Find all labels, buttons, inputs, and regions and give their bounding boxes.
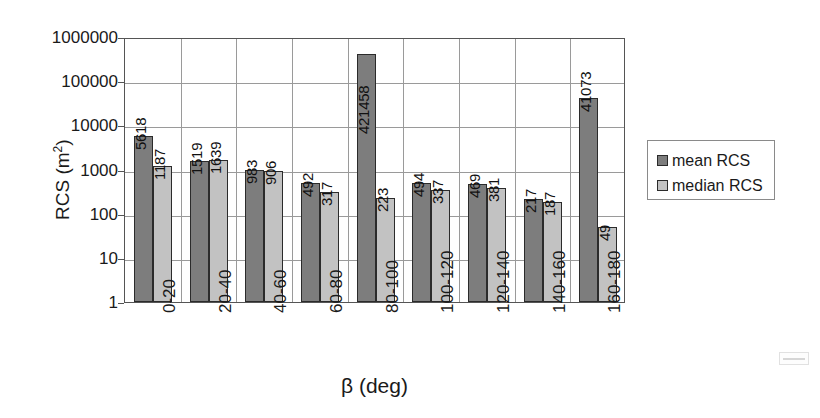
bar-value-label: 41073 [577, 72, 594, 112]
chart-canvas: 1000000100000100001000100101 RCS (m2) 56… [0, 0, 820, 418]
legend-swatch-mean [657, 155, 668, 166]
x-axis-tick-label: 100-120 [438, 251, 458, 313]
bar-value-label: 381 [485, 178, 502, 202]
legend-item-label: mean RCS [672, 152, 750, 170]
x-axis-tick-label: 140-160 [550, 251, 570, 313]
bar-value-label: 492 [299, 173, 316, 197]
bar-value-label: 1519 [188, 143, 205, 175]
x-axis-tick-label: 60-80 [327, 270, 347, 313]
y-axis-tick-label: 1 [0, 293, 118, 313]
legend-item[interactable]: mean RCS [657, 148, 774, 173]
gridline-vertical [181, 39, 182, 302]
legend: mean RCSmedian RCS [647, 140, 775, 200]
gridline-vertical [570, 39, 571, 302]
y-axis-title-text: RCS (m2) [53, 139, 74, 220]
bar-mean [468, 184, 487, 302]
bar-value-label: 223 [374, 188, 391, 212]
scan-artifact-line [783, 358, 805, 360]
bar-value-label: 49 [596, 225, 613, 241]
y-axis-tick-mark [118, 303, 124, 304]
legend-swatch-median [657, 180, 668, 191]
gridline-vertical [348, 39, 349, 302]
y-axis-title: RCS (m2) [51, 95, 74, 265]
bar-mean [301, 183, 320, 302]
x-axis-tick-label: 40-60 [271, 270, 291, 313]
legend-item[interactable]: median RCS [657, 173, 774, 198]
gridline-vertical [236, 39, 237, 302]
bar-mean [524, 199, 543, 302]
x-axis-tick-label: 20-40 [216, 270, 236, 313]
x-axis-tick-label: 120-140 [494, 251, 514, 313]
x-axis-title: β (deg) [124, 374, 625, 398]
bar-value-label: 983 [243, 160, 260, 184]
x-axis-tick-label: 0-20 [160, 279, 180, 313]
y-axis-tick-label: 1000000 [0, 28, 118, 48]
scan-artifact [779, 352, 809, 365]
bar-value-label: 217 [522, 189, 539, 213]
x-axis-tick-label: 160-180 [605, 251, 625, 313]
bar-value-label: 187 [541, 192, 558, 216]
x-axis-tick-label: 80-100 [383, 260, 403, 313]
bar-value-label: 906 [262, 161, 279, 185]
gridline-vertical [459, 39, 460, 302]
x-axis-title-text: β (deg) [341, 374, 408, 397]
bar-value-label: 317 [318, 181, 335, 205]
bar-mean [190, 161, 209, 302]
bar-value-label: 494 [410, 173, 427, 197]
gridline-vertical [403, 39, 404, 302]
bar-value-label: 1639 [207, 142, 224, 174]
bar-value-label: 1187 [151, 149, 168, 180]
y-axis-tick-label: 100000 [0, 72, 118, 92]
bar-value-label: 421458 [355, 85, 372, 133]
legend-item-label: median RCS [672, 177, 763, 195]
bar-mean [245, 170, 264, 302]
bar-mean [579, 98, 598, 302]
gridline-vertical [515, 39, 516, 302]
gridline-vertical [292, 39, 293, 302]
bar-value-label: 469 [466, 174, 483, 198]
bar-value-label: 5618 [132, 118, 149, 150]
bar-mean [134, 136, 153, 302]
bar-value-label: 337 [429, 180, 446, 204]
